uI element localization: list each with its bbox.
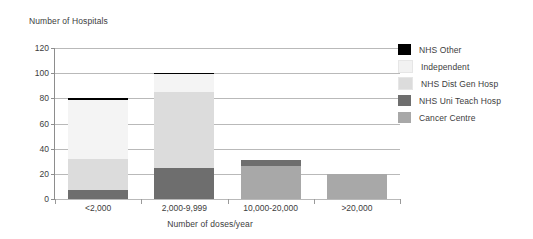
bar-segment[interactable]	[68, 100, 128, 159]
bar-slot-1: <2,000	[55, 48, 141, 199]
legend-label: Cancer Centre	[419, 113, 476, 123]
bar-segment[interactable]	[68, 190, 128, 199]
x-axis-separator	[314, 199, 315, 204]
plot-area: 020406080100120 <2,0002,000-9,99910,000-…	[55, 48, 400, 199]
y-tick-label-120: 120	[35, 43, 49, 53]
legend-swatch-icon	[398, 112, 411, 123]
bar-segment[interactable]	[327, 174, 387, 199]
bar-segment[interactable]	[68, 159, 128, 190]
x-axis-separator	[400, 199, 401, 204]
legend-swatch-icon	[398, 44, 411, 55]
legend-item-4[interactable]: NHS Uni Teach Hosp	[398, 92, 501, 109]
y-axis-title: Number of Hospitals	[29, 16, 108, 26]
legend-item-1[interactable]: NHS Other	[398, 41, 501, 58]
legend-swatch-icon	[398, 77, 413, 90]
bar-slot-2: 2,000-9,999	[141, 48, 227, 199]
y-tick-label-60: 60	[40, 119, 49, 129]
legend-label: NHS Dist Gen Hosp	[421, 79, 498, 89]
bar-slot-4: >20,000	[314, 48, 400, 199]
x-axis-separator	[141, 199, 142, 204]
bar-segment[interactable]	[154, 168, 214, 199]
stacked-bar[interactable]	[327, 174, 387, 199]
legend-item-5[interactable]: Cancer Centre	[398, 109, 501, 126]
x-tick-label-1: <2,000	[55, 203, 141, 213]
legend-swatch-icon	[398, 60, 413, 73]
y-tick-label-0: 0	[44, 194, 49, 204]
legend-swatch-icon	[398, 95, 411, 106]
y-tick-label-20: 20	[40, 169, 49, 179]
stacked-bar[interactable]	[154, 73, 214, 199]
bar-segment[interactable]	[241, 166, 301, 199]
stacked-bar[interactable]	[68, 98, 128, 199]
x-axis-title: Number of doses/year	[0, 219, 420, 229]
legend: NHS OtherIndependentNHS Dist Gen HospNHS…	[398, 41, 501, 126]
bars-group: <2,0002,000-9,99910,000-20,000>20,000	[55, 48, 400, 199]
bar-segment[interactable]	[154, 92, 214, 168]
y-tick-label-100: 100	[35, 68, 49, 78]
x-tick-label-4: >20,000	[314, 203, 400, 213]
y-tick-label-40: 40	[40, 144, 49, 154]
x-tick-label-3: 10,000-20,000	[228, 203, 314, 213]
legend-label: NHS Uni Teach Hosp	[419, 96, 501, 106]
stacked-bar[interactable]	[241, 160, 301, 199]
chart-container: Number of Hospitals 020406080100120 <2,0…	[0, 0, 533, 239]
legend-item-2[interactable]: Independent	[398, 58, 501, 75]
bar-slot-3: 10,000-20,000	[228, 48, 314, 199]
x-axis-separator	[55, 199, 56, 204]
y-tick-label-80: 80	[40, 93, 49, 103]
x-axis-separator	[228, 199, 229, 204]
legend-label: NHS Other	[419, 45, 461, 55]
legend-item-3[interactable]: NHS Dist Gen Hosp	[398, 75, 501, 92]
legend-label: Independent	[421, 62, 469, 72]
x-tick-label-2: 2,000-9,999	[141, 203, 227, 213]
bar-segment[interactable]	[154, 74, 214, 92]
